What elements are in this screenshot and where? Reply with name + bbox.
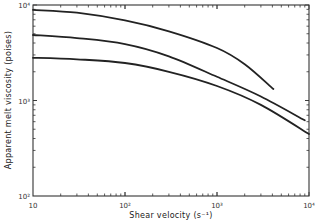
y-axis-title: Apparent melt viscosity (poises) <box>4 31 13 169</box>
x-axis-title: Shear velocity (s⁻¹) <box>129 211 212 220</box>
y-tick-label: 10² <box>18 193 30 201</box>
curve-3 <box>33 58 309 134</box>
x-tick-label: 10³ <box>211 202 223 210</box>
x-tick-label: 10 <box>29 202 38 210</box>
curve-1 <box>33 10 273 89</box>
x-tick-labels: 1010²10³10⁴ <box>29 202 316 210</box>
data-curves <box>33 10 309 134</box>
x-tick-label: 10² <box>119 202 131 210</box>
y-tick-label: 10⁴ <box>18 2 30 10</box>
y-tick-labels: 10²10³10⁴ <box>18 2 30 201</box>
y-tick-label: 10³ <box>18 98 30 106</box>
viscosity-chart: 1010²10³10⁴ 10²10³10⁴ Shear velocity (s⁻… <box>0 0 320 224</box>
x-tick-label: 10⁴ <box>303 202 315 210</box>
